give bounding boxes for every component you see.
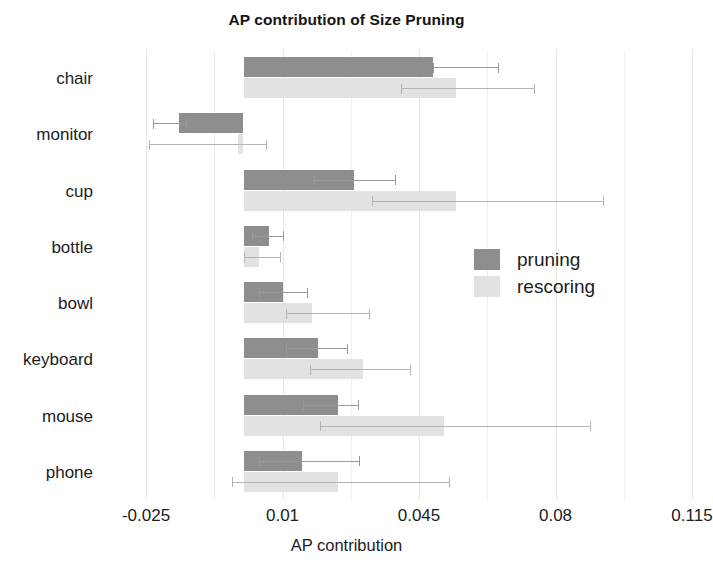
error-bar-rescoring-keyboard <box>310 369 411 370</box>
legend-label-rescoring: rescoring <box>517 277 595 296</box>
chart-row-chair: chair <box>110 50 693 106</box>
error-bar-pruning-bowl <box>259 292 307 293</box>
error-bar-rescoring-mouse <box>320 426 591 427</box>
y-axis-label-phone: phone <box>0 463 93 480</box>
error-bar-pruning-monitor <box>153 123 187 124</box>
x-tick-0: -0.025 <box>122 506 170 526</box>
bar-pruning-chair <box>244 57 434 77</box>
legend-item-pruning: pruning <box>474 246 595 273</box>
chart-row-bowl: bowl <box>110 275 693 331</box>
x-tick-3: 0.08 <box>539 506 572 526</box>
chart-row-keyboard: keyboard <box>110 331 693 387</box>
x-tick-2: 0.045 <box>398 506 441 526</box>
y-axis-label-bowl: bowl <box>0 295 93 312</box>
y-axis-label-chair: chair <box>0 70 93 87</box>
legend-swatch-rescoring <box>474 276 500 297</box>
error-bar-pruning-cup <box>314 180 396 181</box>
chart-row-cup: cup <box>110 163 693 219</box>
error-bar-pruning-mouse <box>303 405 358 406</box>
x-tick-4: 0.115 <box>671 506 712 526</box>
error-bar-pruning-phone <box>259 461 360 462</box>
error-bar-rescoring-monitor <box>149 144 267 145</box>
error-bar-pruning-keyboard <box>286 348 348 349</box>
legend: pruning rescoring <box>474 246 595 300</box>
error-bar-pruning-bottle <box>252 236 284 237</box>
y-axis-label-cup: cup <box>0 182 93 199</box>
chart-row-phone: phone <box>110 444 693 500</box>
plot-area: chairmonitorcupbottlebowlkeyboardmouseph… <box>110 50 693 500</box>
y-axis-label-monitor: monitor <box>0 126 93 143</box>
error-bar-rescoring-bowl <box>286 313 370 314</box>
error-bar-rescoring-cup <box>372 201 604 202</box>
chart-row-bottle: bottle <box>110 219 693 275</box>
chart-row-monitor: monitor <box>110 106 693 162</box>
legend-swatch-pruning <box>474 249 500 270</box>
error-bar-rescoring-bottle <box>244 257 281 258</box>
legend-item-rescoring: rescoring <box>474 273 595 300</box>
error-bar-rescoring-phone <box>232 482 450 483</box>
error-bar-rescoring-chair <box>401 88 535 89</box>
legend-label-pruning: pruning <box>517 250 580 269</box>
chart-row-mouse: mouse <box>110 388 693 444</box>
y-axis-label-bottle: bottle <box>0 238 93 255</box>
x-tick-1: 0.01 <box>266 506 299 526</box>
error-bar-pruning-chair <box>433 67 499 68</box>
x-axis-title: AP contribution <box>0 536 693 555</box>
bar-pruning-monitor <box>179 113 243 133</box>
y-axis-label-keyboard: keyboard <box>0 351 93 368</box>
y-axis-label-mouse: mouse <box>0 407 93 424</box>
